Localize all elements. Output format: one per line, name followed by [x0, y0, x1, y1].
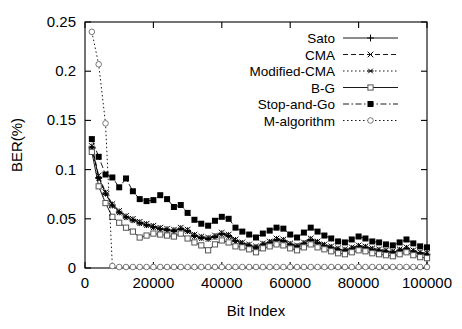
- series-marker-stop-and-go: [239, 229, 245, 235]
- series-marker-b-g: [349, 250, 354, 255]
- series-marker-b-g: [199, 243, 204, 248]
- y-tick-label: 0.05: [47, 210, 76, 227]
- y-tick-label: 0.15: [47, 111, 76, 128]
- series-marker-m-algorithm: [240, 264, 246, 270]
- x-tick-label: 20000: [133, 274, 175, 291]
- series-marker-stop-and-go: [390, 242, 396, 248]
- series-marker-m-algorithm: [404, 264, 410, 270]
- legend-label-b-g: B-G: [311, 81, 335, 96]
- series-marker-m-algorithm: [349, 264, 355, 270]
- series-marker-stop-and-go: [219, 214, 225, 220]
- series-marker-m-algorithm: [356, 264, 362, 270]
- series-marker-b-g: [151, 231, 156, 236]
- series-marker-b-g: [329, 249, 334, 254]
- series-marker-stop-and-go: [164, 196, 170, 202]
- series-marker-stop-and-go: [89, 136, 95, 142]
- series-marker-m-algorithm: [178, 264, 184, 270]
- series-marker-b-g: [363, 249, 368, 254]
- series-marker-stop-and-go: [226, 216, 232, 222]
- series-marker-stop-and-go: [150, 197, 156, 203]
- series-marker-b-g: [212, 242, 217, 247]
- series-marker-b-g: [219, 238, 224, 243]
- series-marker-stop-and-go: [185, 210, 191, 216]
- series-marker-stop-and-go: [308, 225, 314, 231]
- series-marker-stop-and-go: [294, 234, 300, 240]
- series-marker-b-g: [301, 245, 306, 250]
- series-marker-m-algorithm: [130, 264, 136, 270]
- series-marker-stop-and-go: [212, 218, 218, 224]
- series-marker-stop-and-go: [103, 172, 109, 178]
- series-marker-m-algorithm: [219, 264, 225, 270]
- series-marker-m-algorithm: [123, 264, 129, 270]
- series-marker-m-algorithm: [308, 264, 314, 270]
- series-marker-m-algorithm: [342, 264, 348, 270]
- series-marker-stop-and-go: [356, 234, 362, 240]
- series-marker-stop-and-go: [144, 198, 150, 204]
- series-marker-stop-and-go: [178, 202, 184, 208]
- series-marker-stop-and-go: [137, 196, 143, 202]
- legend-marker-stop-and-go: [368, 101, 374, 107]
- series-marker-b-g: [424, 256, 429, 261]
- series-marker-b-g: [281, 243, 286, 248]
- legend-marker-m-algorithm: [368, 118, 374, 124]
- series-marker-m-algorithm: [110, 263, 116, 269]
- series-marker-stop-and-go: [403, 236, 409, 242]
- series-marker-b-g: [130, 229, 135, 234]
- series-marker-stop-and-go: [246, 232, 252, 238]
- series-marker-m-algorithm: [144, 264, 150, 270]
- series-marker-m-algorithm: [226, 264, 232, 270]
- series-marker-b-g: [89, 149, 94, 154]
- series-marker-b-g: [274, 242, 279, 247]
- series-marker-m-algorithm: [212, 264, 218, 270]
- series-marker-b-g: [96, 184, 101, 189]
- series-marker-stop-and-go: [335, 238, 341, 244]
- series-marker-m-algorithm: [185, 264, 191, 270]
- series-marker-b-g: [356, 248, 361, 253]
- series-marker-stop-and-go: [410, 240, 416, 246]
- series-marker-m-algorithm: [301, 264, 307, 270]
- series-marker-b-g: [267, 244, 272, 249]
- series-marker-b-g: [123, 225, 128, 230]
- series-marker-b-g: [315, 245, 320, 250]
- series-marker-stop-and-go: [397, 239, 403, 245]
- series-marker-b-g: [308, 242, 313, 247]
- series-marker-m-algorithm: [233, 264, 239, 270]
- series-marker-b-g: [178, 231, 183, 236]
- series-marker-b-g: [342, 252, 347, 257]
- series-marker-b-g: [158, 232, 163, 237]
- series-marker-stop-and-go: [260, 231, 266, 237]
- series-marker-stop-and-go: [191, 217, 197, 223]
- series-marker-stop-and-go: [274, 225, 280, 231]
- series-marker-b-g: [404, 250, 409, 255]
- series-marker-stop-and-go: [130, 188, 136, 194]
- series-marker-stop-and-go: [424, 244, 430, 250]
- series-marker-m-algorithm: [287, 264, 293, 270]
- series-marker-stop-and-go: [232, 225, 238, 231]
- series-marker-stop-and-go: [376, 239, 382, 245]
- series-marker-stop-and-go: [253, 234, 259, 240]
- series-marker-b-g: [390, 254, 395, 259]
- series-marker-m-algorithm: [363, 264, 369, 270]
- series-marker-b-g: [117, 220, 122, 225]
- series-marker-stop-and-go: [328, 235, 334, 241]
- series-marker-m-algorithm: [376, 264, 382, 270]
- series-marker-m-algorithm: [205, 264, 211, 270]
- x-tick-label: 60000: [269, 274, 311, 291]
- series-marker-m-algorithm: [164, 264, 170, 270]
- series-marker-b-g: [247, 247, 252, 252]
- series-marker-b-g: [185, 236, 190, 241]
- series-marker-stop-and-go: [287, 232, 293, 238]
- series-marker-stop-and-go: [315, 229, 321, 235]
- series-marker-stop-and-go: [205, 223, 211, 229]
- x-tick-label: 0: [81, 274, 89, 291]
- series-marker-m-algorithm: [116, 264, 122, 270]
- series-marker-m-algorithm: [383, 264, 389, 270]
- series-marker-m-algorithm: [315, 264, 321, 270]
- y-tick-label: 0.1: [55, 161, 76, 178]
- series-marker-m-algorithm: [253, 264, 259, 270]
- series-marker-m-algorithm: [192, 264, 198, 270]
- series-marker-b-g: [164, 233, 169, 238]
- series-marker-stop-and-go: [349, 236, 355, 242]
- series-marker-b-g: [253, 250, 258, 255]
- series-marker-m-algorithm: [390, 264, 396, 270]
